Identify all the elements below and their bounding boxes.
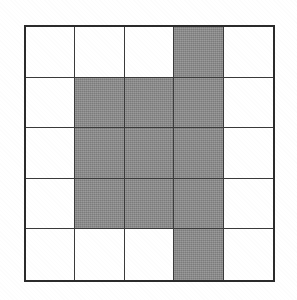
grid-cell-r2-c3[interactable] xyxy=(125,78,174,129)
grid-cell-r3-c5[interactable] xyxy=(224,128,273,179)
grid-cell-r5-c3[interactable] xyxy=(125,229,174,280)
grid-cell-r5-c1[interactable] xyxy=(26,229,75,280)
grid-table xyxy=(26,27,273,280)
grid-cell-r5-c2[interactable] xyxy=(75,229,124,280)
grid-cell-r3-c3[interactable] xyxy=(125,128,174,179)
grid-cell-r2-c1[interactable] xyxy=(26,78,75,129)
grid-cell-r1-c3[interactable] xyxy=(125,27,174,78)
grid-cell-r3-c2[interactable] xyxy=(75,128,124,179)
grid-cell-r4-c3[interactable] xyxy=(125,179,174,230)
grid-cell-r2-c4[interactable] xyxy=(174,78,223,129)
grid-cell-r5-c4[interactable] xyxy=(174,229,223,280)
grid-cell-r1-c1[interactable] xyxy=(26,27,75,78)
grid-cell-r1-c5[interactable] xyxy=(224,27,273,78)
grid-cell-r5-c5[interactable] xyxy=(224,229,273,280)
grid-cell-r4-c2[interactable] xyxy=(75,179,124,230)
grid-cell-r2-c2[interactable] xyxy=(75,78,124,129)
grid-cell-r4-c5[interactable] xyxy=(224,179,273,230)
grid-cell-r3-c1[interactable] xyxy=(26,128,75,179)
grid-cell-r2-c5[interactable] xyxy=(224,78,273,129)
grid-outer-border xyxy=(24,25,275,282)
grid-cell-r1-c4[interactable] xyxy=(174,27,223,78)
grid-cell-r1-c2[interactable] xyxy=(75,27,124,78)
grid-cell-r3-c4[interactable] xyxy=(174,128,223,179)
grid-cell-r4-c4[interactable] xyxy=(174,179,223,230)
grid-cell-r4-c1[interactable] xyxy=(26,179,75,230)
figure-root xyxy=(0,0,297,300)
